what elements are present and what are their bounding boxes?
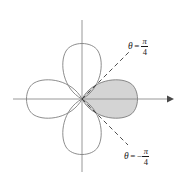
fraction-numerator-bottom: π	[143, 147, 149, 156]
x-axis-arrowhead	[167, 96, 174, 103]
fraction-top: π 4	[141, 37, 148, 57]
label-theta-negative-pi-over-4: θ = − π 4	[124, 147, 149, 167]
fraction-denominator-bottom: 4	[143, 158, 149, 167]
equals-sign-bottom: =	[130, 152, 135, 161]
fraction-denominator-top: 4	[142, 48, 148, 57]
fraction-numerator-top: π	[142, 37, 148, 46]
rose-curve-diagram	[0, 0, 185, 179]
sign-bottom: −	[137, 152, 142, 161]
fraction-bottom: π 4	[142, 147, 149, 167]
equals-sign-top: =	[134, 42, 139, 51]
polar-rose-figure: θ = π 4 θ = − π 4	[0, 0, 185, 179]
theta-symbol-bottom: θ	[124, 152, 129, 162]
label-theta-pi-over-4: θ = π 4	[128, 37, 148, 57]
theta-symbol-top: θ	[128, 42, 133, 52]
